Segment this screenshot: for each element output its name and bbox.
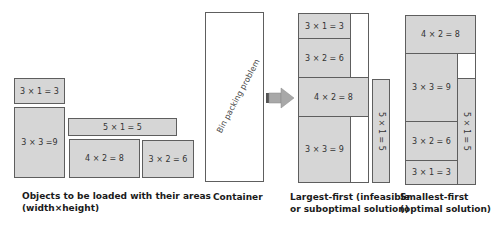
sf-3x3: 3 × 3 = 9: [405, 53, 458, 122]
objects-caption: Objects to be loaded with their areas (w…: [22, 190, 211, 214]
sf-label: 5 × 1 = 5: [462, 112, 471, 151]
smallest-first-caption: Smallest-first (optimal solution): [400, 191, 491, 215]
lf-caption-line1: Largest-first (infeasible: [290, 191, 410, 203]
object-label: 3 × 1 = 3: [20, 87, 59, 96]
object-label: 4 × 2 = 8: [85, 154, 124, 163]
object-3x3: 3 × 3 =9: [14, 107, 65, 178]
sf-3x2: 3 × 2 = 6: [405, 121, 458, 161]
lf-4x2: 4 × 2 = 8: [298, 77, 369, 117]
objects-caption-line1: Objects to be loaded with their areas: [22, 190, 211, 202]
sf-caption-line2: (optimal solution): [400, 203, 491, 215]
lf-label: 3 × 2 = 6: [305, 54, 344, 63]
lf-caption-line2: or suboptimal solution): [290, 203, 410, 215]
lf-3x2: 3 × 2 = 6: [298, 38, 351, 78]
sf-label: 3 × 3 = 9: [412, 83, 451, 92]
sf-5x1: 5 × 1 = 5: [457, 78, 476, 185]
largest-first-caption: Largest-first (infeasible or suboptimal …: [290, 191, 410, 215]
sf-label: 4 × 2 = 8: [421, 30, 460, 39]
lf-5x1-overflow: 5 × 1 = 5: [372, 79, 390, 183]
lf-3x1: 3 × 1 = 3: [298, 13, 351, 39]
container-caption: Container: [213, 191, 263, 203]
object-label: 3 × 3 =9: [21, 138, 57, 147]
object-label: 3 × 2 = 6: [149, 155, 188, 164]
lf-3x3: 3 × 3 = 9: [298, 116, 351, 183]
object-label: 5 × 1 = 5: [103, 123, 142, 132]
object-3x1: 3 × 1 = 3: [14, 78, 65, 104]
sf-3x1: 3 × 1 = 3: [405, 160, 458, 185]
sf-4x2: 4 × 2 = 8: [405, 15, 476, 54]
lf-label: 3 × 3 = 9: [305, 145, 344, 154]
arrow-right-icon: [266, 87, 296, 109]
object-5x1: 5 × 1 = 5: [68, 118, 177, 136]
lf-label: 4 × 2 = 8: [314, 93, 353, 102]
lf-label: 5 × 1 = 5: [377, 112, 386, 151]
object-4x2: 4 × 2 = 8: [69, 139, 140, 178]
sf-label: 3 × 2 = 6: [412, 137, 451, 146]
sf-caption-line1: Smallest-first: [400, 191, 491, 203]
sf-label: 3 × 1 = 3: [412, 168, 451, 177]
object-3x2: 3 × 2 = 6: [142, 140, 194, 178]
lf-label: 3 × 1 = 3: [305, 22, 344, 31]
objects-caption-line2: (width×height): [22, 202, 211, 214]
